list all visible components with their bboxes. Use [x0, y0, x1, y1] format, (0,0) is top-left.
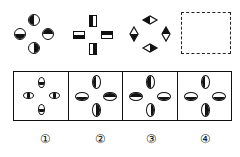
- half-black-circle-left: [14, 28, 26, 40]
- option-1[interactable]: [14, 72, 69, 120]
- ellipse-top: [201, 75, 210, 89]
- sequence-figure-2: [71, 13, 115, 57]
- ellipse-right: [103, 92, 117, 101]
- half-black-rect-right: [101, 31, 113, 39]
- half-black-circle-right: [42, 28, 54, 40]
- options-panel: [13, 71, 232, 121]
- ellipse-right: [212, 92, 226, 101]
- half-black-rect-left: [73, 31, 85, 39]
- option-1-label: ①: [35, 132, 55, 146]
- half-black-rect-top: [89, 15, 97, 27]
- ellipse-right: [157, 92, 171, 101]
- option-4-label: ④: [195, 132, 215, 146]
- oval-left: [23, 92, 34, 99]
- ellipse-bottom: [201, 103, 210, 117]
- oval-bottom: [38, 104, 45, 115]
- ellipse-top: [92, 75, 101, 89]
- ellipse-top: [146, 75, 155, 89]
- oval-top: [38, 77, 45, 88]
- half-black-circle-top: [28, 14, 40, 26]
- half-black-circle-bottom: [28, 42, 40, 54]
- answer-placeholder-box: [181, 12, 231, 54]
- ellipse-bottom: [92, 103, 101, 117]
- sequence-figure-1: [12, 12, 56, 56]
- option-2[interactable]: [69, 72, 124, 120]
- ellipse-left: [75, 92, 89, 101]
- oval-right: [49, 92, 60, 99]
- ellipse-left: [129, 92, 143, 101]
- half-black-rect-bottom: [89, 43, 97, 55]
- ellipse-bottom: [146, 103, 155, 117]
- option-3-label: ③: [141, 132, 161, 146]
- option-3[interactable]: [123, 72, 178, 120]
- ellipse-left: [184, 92, 198, 101]
- diamonds-icon: [128, 12, 172, 56]
- option-2-label: ②: [90, 132, 110, 146]
- option-4[interactable]: [178, 72, 232, 120]
- sequence-figure-3: [128, 12, 172, 56]
